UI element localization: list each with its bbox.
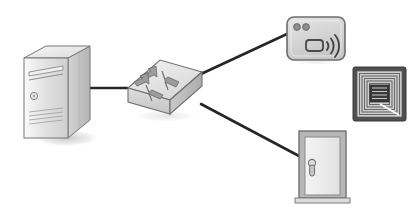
edge-server-switch[interactable] [88, 82, 130, 94]
node-server[interactable] [20, 40, 92, 144]
node-door[interactable] [296, 128, 350, 204]
diagram-canvas [0, 0, 420, 213]
edge-switch-card-reader[interactable] [198, 30, 288, 80]
node-network-switch[interactable] [124, 56, 204, 118]
node-rfid-card-reader[interactable] [284, 14, 348, 64]
edge-switch-door[interactable] [198, 100, 300, 162]
node-rfid-tag[interactable] [350, 64, 408, 124]
